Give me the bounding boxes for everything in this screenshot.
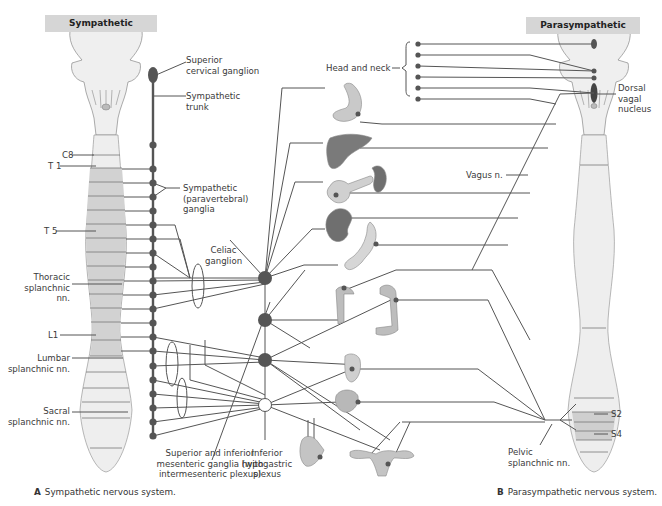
organs (300, 83, 414, 476)
sympathetic-header: Sympathetic (45, 15, 157, 32)
head-and-neck-label: Head and neck (326, 63, 391, 74)
sacral-splanchnic-label: Sacral splanchnic nn. (8, 406, 70, 427)
celiac-ganglion-label: Celiac ganglion (205, 245, 242, 266)
sympathetic-ganglia-label: Sympathetic (paravertebral) ganglia (183, 183, 248, 215)
autonomic-diagram (0, 0, 662, 506)
bladder-icon (335, 390, 358, 412)
segment-t5-label: T 5 (44, 226, 57, 237)
lumbar-splanchnic-label: Lumbar splanchnic nn. (8, 353, 70, 374)
descending-colon-icon (376, 285, 398, 335)
thoracic-splanchnic-label: Thoracic splanchnic nn. (24, 272, 70, 304)
spleen-icon (372, 166, 386, 192)
segment-s2-label: S2 (611, 409, 622, 420)
segment-c8-label: C8 (62, 150, 73, 161)
male-genitalia-icon (300, 436, 324, 466)
segment-l1-label: L1 (48, 330, 58, 341)
liver-icon (327, 134, 372, 168)
caption-a: ASympathetic nervous system. (34, 487, 176, 497)
caption-b: BParasympathetic nervous system. (497, 487, 657, 497)
pelvic-splanchnic-label: Pelvic splanchnic nn. (508, 447, 570, 468)
pancreas-icon (327, 176, 373, 203)
dorsal-vagal-nucleus-label: Dorsal vagal nucleus (618, 83, 651, 115)
sympathetic-trunk-label: Sympathetic trunk (186, 91, 240, 112)
segment-s4-label: S4 (611, 429, 622, 440)
segment-t1-label: T 1 (48, 161, 61, 172)
head-neck-dots (415, 41, 420, 101)
parasympathetic-header: Parasympathetic (526, 17, 640, 34)
vagus-nerve-label: Vagus n. (466, 170, 503, 181)
small-intestine-icon (345, 222, 376, 270)
kidney-icon (326, 209, 352, 242)
sympathetic-spinal-cord (70, 30, 143, 472)
inferior-hypogastric-plexus-label: Inferior hypogastric plexus (237, 448, 297, 480)
uterus-icon (350, 450, 414, 476)
superior-cervical-ganglion-label: Superior cervical ganglion (186, 55, 259, 76)
